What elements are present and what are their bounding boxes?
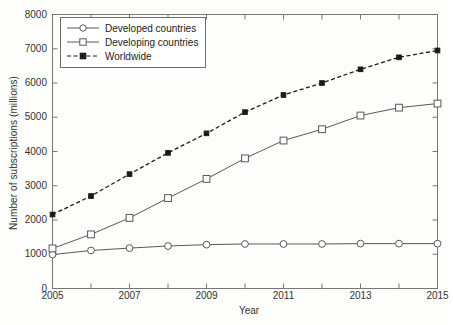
data-point-marker [434,100,441,107]
data-point-marker [165,195,172,202]
data-point-marker [203,176,210,183]
data-point-marker [243,110,248,115]
data-point-marker [166,151,171,156]
series-worldwide [50,48,440,217]
data-point-marker [396,240,403,247]
legend-item-worldwide: Worldwide [66,49,198,63]
data-point-marker [204,131,209,136]
series-layer [49,48,441,258]
legend-swatch-circle-icon [66,22,100,34]
data-point-marker [165,243,172,250]
data-point-marker [89,194,94,199]
data-point-marker [127,172,132,177]
series-line [53,104,438,249]
series-developed-countries [49,240,441,258]
data-point-marker [319,241,326,248]
data-point-marker [357,240,364,247]
data-point-marker [396,104,403,111]
legend-swatch-square-icon [66,36,100,48]
data-point-marker [434,240,441,247]
data-point-marker [49,245,56,252]
legend-label-worldwide: Worldwide [105,51,152,62]
data-point-marker [320,81,325,86]
data-point-marker [358,67,363,72]
legend-label-developing: Developing countries [105,37,198,48]
data-point-marker [126,215,133,222]
data-point-marker [126,245,133,252]
data-point-marker [319,126,326,133]
data-point-marker [281,93,286,98]
data-point-marker [357,112,364,119]
legend-swatch-dashed-icon [66,50,100,62]
data-point-marker [203,241,210,248]
data-point-marker [397,55,402,60]
data-point-marker [50,212,55,217]
data-point-marker [242,241,249,248]
data-point-marker [280,241,287,248]
chart-legend: Developed countries Developing countries… [60,17,206,68]
legend-label-developed: Developed countries [105,23,196,34]
data-point-marker [88,231,95,238]
series-developing-countries [49,100,441,252]
data-point-marker [435,48,440,53]
legend-item-developing: Developing countries [66,35,198,49]
data-point-marker [242,155,249,162]
data-point-marker [280,137,287,144]
legend-item-developed: Developed countries [66,21,198,35]
series-line [53,50,438,214]
data-point-marker [88,247,95,254]
